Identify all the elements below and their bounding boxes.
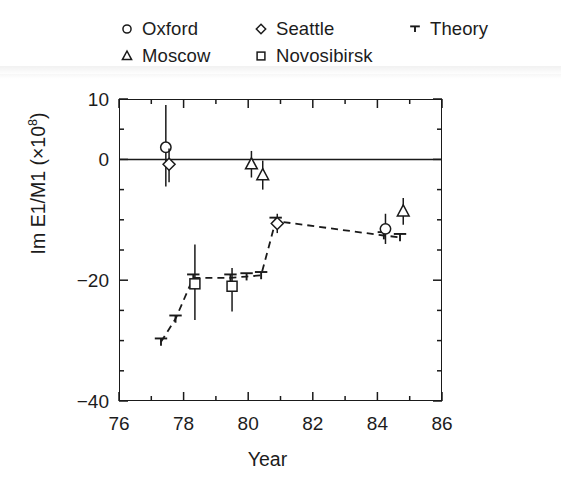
legend-label: Moscow	[142, 47, 210, 66]
x-tick-label: 78	[173, 414, 194, 433]
y-axis-title-suffix: )	[27, 113, 49, 120]
legend-label: Theory	[430, 20, 488, 39]
circle-open-marker	[123, 25, 131, 33]
chart-legend: OxfordSeattleTheoryMoscowNovosibirsk	[118, 16, 538, 74]
x-tick-label: 76	[108, 414, 129, 433]
circle-open-marker	[118, 20, 136, 38]
y-axis-title-exponent: 8	[26, 119, 40, 126]
series-seattle	[163, 149, 283, 234]
square-open-marker	[190, 279, 200, 289]
series-novosibirsk	[190, 245, 237, 321]
diamond-open-marker	[256, 24, 265, 33]
x-tick-label: 82	[302, 414, 323, 433]
y-axis-title-text: Im E1/M1 (×10	[27, 126, 49, 254]
x-tick-label: 86	[431, 414, 452, 433]
y-tick-label: −20	[9, 271, 109, 290]
y-tick-label: −40	[9, 392, 109, 411]
legend-entry-seattle: Seattle	[252, 16, 334, 42]
series-moscow	[246, 151, 410, 225]
triangle-open-marker	[122, 51, 131, 60]
y-tick-label: 0	[9, 150, 109, 169]
y-tick-label: 10	[9, 90, 109, 109]
scan-artifact-band-secondary	[0, 74, 561, 79]
x-tick-label: 80	[238, 414, 259, 433]
square-open-marker	[257, 52, 265, 60]
diamond-open-marker	[252, 20, 270, 38]
x-axis-title-text: Year	[248, 448, 287, 471]
legend-row: OxfordSeattleTheory	[118, 16, 538, 42]
legend-entry-novosibirsk: Novosibirsk	[252, 43, 373, 69]
x-axis-title: Year	[0, 448, 561, 471]
legend-entry-moscow: Moscow	[118, 43, 210, 69]
legend-label: Seattle	[276, 20, 334, 39]
theory-tee-marker	[406, 20, 424, 38]
diamond-open-marker	[271, 217, 283, 229]
triangle-open-marker	[257, 169, 269, 180]
y-axis-title: Im E1/M1 (×108)	[27, 34, 50, 334]
x-tick-label: 84	[367, 414, 388, 433]
legend-label: Oxford	[142, 20, 198, 39]
legend-row: MoscowNovosibirsk	[118, 43, 538, 69]
plot-area	[119, 99, 442, 401]
plot-graphics	[119, 99, 442, 401]
legend-entry-oxford: Oxford	[118, 16, 198, 42]
triangle-open-marker	[118, 47, 136, 65]
legend-label: Novosibirsk	[276, 47, 373, 66]
circle-open-marker	[380, 224, 390, 234]
square-open-marker	[227, 281, 237, 291]
triangle-open-marker	[397, 205, 409, 216]
square-open-marker	[252, 47, 270, 65]
legend-entry-theory: Theory	[406, 16, 488, 42]
figure-canvas: OxfordSeattleTheoryMoscowNovosibirsk 100…	[0, 0, 561, 494]
